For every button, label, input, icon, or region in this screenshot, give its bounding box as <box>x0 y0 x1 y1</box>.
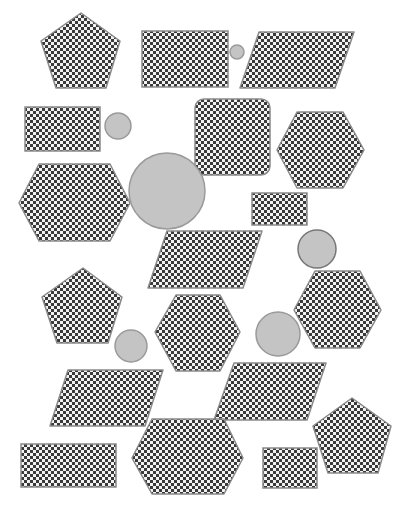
rectangle-shape <box>21 444 116 487</box>
hexagon-shape <box>132 419 243 494</box>
rectangle-shape <box>142 31 228 87</box>
rectangle-shape <box>263 448 317 488</box>
parallelogram-shape <box>50 370 163 426</box>
circle-small-shape <box>105 113 131 139</box>
rectangle-shape <box>25 107 100 151</box>
circle-small-shape <box>230 45 244 59</box>
parallelogram-shape <box>240 32 354 88</box>
circle-medium-shape <box>256 312 300 356</box>
hexagon-shape <box>19 164 130 241</box>
circle-large-shape <box>129 153 205 229</box>
shapes-canvas <box>0 0 407 511</box>
circle-medium-shape <box>298 230 336 268</box>
parallelogram-shape <box>214 363 326 420</box>
rounded-square-shape <box>195 99 270 175</box>
circle-medium-shape <box>115 330 147 362</box>
rectangle-shape <box>252 193 307 225</box>
parallelogram-shape <box>148 231 262 288</box>
